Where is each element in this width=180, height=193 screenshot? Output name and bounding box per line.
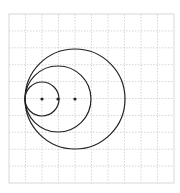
center-point-1 <box>40 97 43 100</box>
center-points <box>40 97 76 100</box>
center-point-2 <box>56 97 59 100</box>
diagram-canvas <box>0 0 180 193</box>
center-point-3 <box>73 97 76 100</box>
